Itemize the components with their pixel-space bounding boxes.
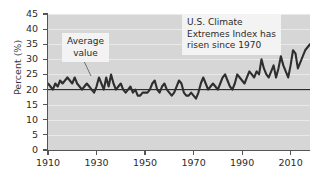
y-tick-label: 20: [14, 85, 38, 95]
x-tick: [290, 151, 291, 155]
y-tick: [43, 44, 47, 45]
x-tick: [144, 151, 145, 155]
y-tick-label: 45: [14, 9, 38, 19]
y-tick: [43, 89, 47, 90]
y-tick: [43, 29, 47, 30]
y-tick-label: 10: [14, 115, 38, 125]
x-tick-label: 1970: [174, 158, 214, 168]
y-tick-label: 30: [14, 54, 38, 64]
y-tick-label: 35: [14, 39, 38, 49]
y-tick-label: 25: [14, 69, 38, 79]
y-tick: [43, 149, 47, 150]
y-tick: [43, 134, 47, 135]
y-tick-label: 5: [14, 130, 38, 140]
y-tick: [43, 13, 47, 14]
y-tick-label: 40: [14, 24, 38, 34]
x-tick-label: 1910: [28, 158, 68, 168]
y-tick: [43, 104, 47, 105]
x-tick-label: 1990: [222, 158, 262, 168]
y-tick: [43, 74, 47, 75]
x-tick: [96, 151, 97, 155]
y-tick: [43, 119, 47, 120]
x-tick-label: 1950: [125, 158, 165, 168]
y-tick-label: 0: [14, 145, 38, 155]
x-tick-label: 1930: [77, 158, 117, 168]
x-tick: [242, 151, 243, 155]
climate-extremes-chart: Percent (%) 051015202530354045 191019301…: [0, 0, 320, 188]
x-tick: [47, 151, 48, 155]
y-tick-label: 15: [14, 100, 38, 110]
callout-trend-note: U.S. Climate Extremes Index has risen si…: [182, 14, 281, 55]
y-tick: [43, 59, 47, 60]
x-axis-line: [47, 150, 310, 151]
x-tick-label: 2010: [271, 158, 311, 168]
x-tick: [193, 151, 194, 155]
callout-average-value: Average value: [62, 33, 109, 62]
